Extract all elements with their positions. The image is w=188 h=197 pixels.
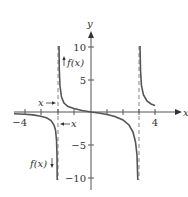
annotation-fx-down: f(x)	[29, 158, 54, 169]
function-graph: −4 4 10 5 −5 −10 x y f(x) f(x) x x	[0, 0, 188, 197]
x-axis-arrow-icon	[175, 109, 182, 115]
y-tick-label-neg5: −5	[71, 140, 86, 151]
y-axis-label: y	[86, 18, 93, 29]
annotation-x-approach-left: x	[60, 118, 77, 129]
annotation-x-approach-right: x	[38, 97, 56, 108]
x-axis-label: x	[183, 107, 188, 118]
x-tick-label-4: 4	[152, 117, 158, 128]
right-arrow-icon	[52, 101, 56, 104]
x-tick-label-neg4: −4	[12, 117, 27, 128]
annotation-fx-up: f(x)	[62, 56, 84, 68]
svg-text:f(x): f(x)	[66, 57, 84, 68]
svg-text:x: x	[38, 97, 44, 108]
svg-text:x: x	[71, 118, 77, 129]
y-tick-label-neg10: −10	[65, 173, 86, 184]
y-axis-arrow-icon	[88, 31, 94, 38]
y-tick-label-5: 5	[80, 75, 86, 86]
svg-text:f(x): f(x)	[29, 158, 47, 169]
down-arrow-icon	[50, 164, 53, 168]
up-arrow-icon	[62, 56, 65, 60]
curve-right-branch	[140, 46, 155, 106]
y-tick-label-10: 10	[73, 42, 86, 53]
